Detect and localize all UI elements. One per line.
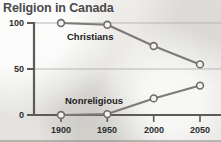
series-line-christians [61,23,200,64]
x-axis-label-2050: 2050 [180,125,220,135]
y-axis-label-0: 0 [0,110,24,120]
data-point-christians-2050[interactable] [197,61,204,68]
religion-in-canada-chart: Religion in Canada [0,0,221,142]
x-axis-label-1950: 1950 [87,125,127,135]
series-label-christians: Christians [67,31,113,42]
data-point-nonreligious-2050[interactable] [197,82,204,89]
bottom-rule [0,140,221,142]
x-axis-label-1900: 1900 [41,125,81,135]
data-point-christians-1900[interactable] [58,20,65,27]
x-axis-label-2000: 2000 [134,125,174,135]
chart-plot-area [0,0,221,142]
y-axis-label-100: 100 [0,18,24,28]
data-point-nonreligious-1950[interactable] [104,111,111,118]
data-point-nonreligious-1900[interactable] [58,112,65,119]
y-axis-label-50: 50 [0,64,24,74]
data-point-christians-2000[interactable] [150,43,157,50]
data-point-christians-1950[interactable] [104,21,111,28]
series-label-nonreligious: Nonreligious [65,95,123,106]
series-christians [58,20,204,68]
data-point-nonreligious-2000[interactable] [150,95,157,102]
